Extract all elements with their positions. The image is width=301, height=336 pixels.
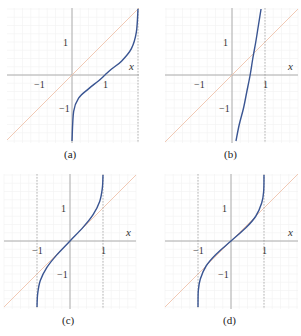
tick-x-neg1: −1 — [34, 79, 45, 90]
tick-y-pos1: 1 — [223, 37, 228, 48]
tick-x-pos1: 1 — [263, 79, 268, 90]
tick-x-neg1: −1 — [194, 79, 205, 90]
tick-y-neg1: −1 — [219, 103, 230, 114]
panel-d: −1 1 1 −1 x (d) — [165, 174, 298, 327]
caption: (b) — [224, 148, 237, 161]
tick-x-pos1: 1 — [101, 245, 106, 256]
figure: −1 1 1 −1 x (a) −1 1 1 −1 x (b) −1 1 1 −… — [0, 0, 301, 336]
caption: (a) — [64, 148, 77, 161]
tick-x-pos1: 1 — [103, 79, 108, 90]
x-axis-label: x — [125, 226, 131, 238]
tick-y-pos1: 1 — [222, 203, 227, 214]
panel-c: −1 1 1 −1 x (c) — [4, 174, 136, 327]
tick-y-neg1: −1 — [57, 269, 68, 280]
x-axis-label: x — [287, 226, 293, 238]
identity-line — [165, 9, 298, 142]
tick-y-neg1: −1 — [218, 269, 229, 280]
panel-a: −1 1 1 −1 x (a) — [7, 8, 139, 161]
tick-y-neg1: −1 — [59, 103, 70, 114]
tick-y-pos1: 1 — [61, 203, 66, 214]
x-axis-label: x — [287, 60, 293, 72]
caption: (d) — [223, 314, 236, 327]
tick-x-neg1: −1 — [32, 245, 43, 256]
tick-x-pos1: 1 — [262, 245, 267, 256]
tick-y-pos1: 1 — [63, 37, 68, 48]
caption: (c) — [62, 314, 75, 327]
panel-b: −1 1 1 −1 x (b) — [165, 8, 298, 161]
tick-x-neg1: −1 — [193, 245, 204, 256]
x-axis-label: x — [128, 60, 134, 72]
